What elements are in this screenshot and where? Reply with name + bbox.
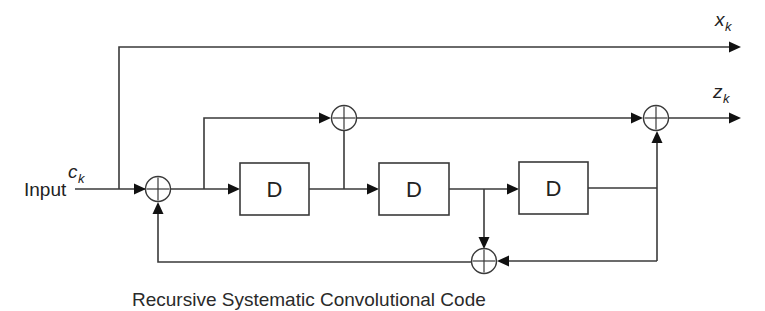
delay-box-d2: D — [379, 163, 449, 215]
arrow-left-into-bottom-adder — [497, 256, 509, 267]
delay-label: D — [406, 177, 422, 202]
diagram-caption: Recursive Systematic Convolutional Code — [132, 289, 486, 310]
arrow-down-into-bottom-adder — [479, 237, 490, 249]
svg-text:z: z — [712, 81, 723, 102]
arrow-into-adder3 — [631, 113, 643, 124]
delay-box-d3: D — [519, 162, 588, 214]
systematic-output-label: x k — [714, 9, 733, 34]
parity-output-label: z k — [712, 81, 731, 106]
input-label: Input — [24, 179, 67, 200]
arrow-up-into-adder3 — [652, 131, 663, 143]
svg-text:k: k — [725, 19, 733, 34]
feedback-line — [158, 208, 471, 262]
arrow-into-d1 — [228, 184, 240, 195]
arrow-into-d2 — [367, 184, 379, 195]
arrow-xk-output — [729, 42, 741, 53]
arrow-into-d3 — [507, 184, 519, 195]
arrow-feedback-into-adder1 — [153, 202, 164, 214]
delay-box-d1: D — [240, 163, 309, 215]
xor-adder-feedback-sum-icon — [472, 249, 497, 274]
svg-text:c: c — [68, 161, 78, 182]
arrow-into-adder1 — [134, 184, 146, 195]
xor-adder-parity-output-icon — [644, 106, 669, 131]
svg-text:k: k — [78, 171, 86, 186]
svg-text:k: k — [723, 91, 731, 106]
delay-label: D — [546, 176, 562, 201]
rsc-encoder-diagram: D D D Input c k x k z k Recur — [0, 0, 765, 311]
arrow-into-adder2 — [319, 113, 331, 124]
xor-adder-feedback-icon — [146, 177, 171, 202]
xor-adder-parity-tap-icon — [332, 106, 357, 131]
arrow-zk-output — [729, 113, 741, 124]
delay-label: D — [267, 177, 283, 202]
input-symbol: c k — [68, 161, 86, 186]
